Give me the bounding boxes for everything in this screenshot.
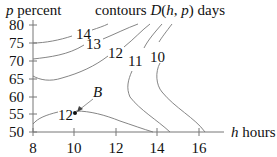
y-axis-title: p percent <box>5 2 62 18</box>
x-tick-label: 12 <box>109 140 124 156</box>
contour-label: 10 <box>150 49 165 65</box>
x-unit: hours <box>239 124 276 140</box>
contour-11: 11 <box>128 24 170 132</box>
contour-label: 13 <box>86 36 101 52</box>
point-b-annotation: B <box>73 84 102 115</box>
x-tick-label: 8 <box>29 140 37 156</box>
contour-10: 10 <box>150 24 205 132</box>
y-tick-label: 80 <box>9 17 24 33</box>
y-tick-label: 55 <box>9 106 24 122</box>
y-tick-label: 50 <box>9 124 24 140</box>
x-axis-title: h hours <box>231 124 276 140</box>
y-tick-label: 60 <box>9 89 24 105</box>
y-tick-label: 65 <box>9 71 24 87</box>
point-b-label: B <box>93 84 102 100</box>
contour-12-lower: 12 <box>33 107 153 132</box>
x-tick-label: 10 <box>67 140 82 156</box>
x-tick-label: 16 <box>192 140 208 156</box>
contour-plot: 80 75 70 65 60 55 50 8 10 12 14 16 p per… <box>0 0 277 157</box>
point-b-marker <box>73 111 77 115</box>
contour-label: 12 <box>58 107 73 123</box>
contour-label: 11 <box>128 53 142 69</box>
contour-label: 12 <box>108 45 123 61</box>
y-tick-label: 70 <box>9 53 24 69</box>
x-tick-label: 14 <box>150 140 166 156</box>
y-unit: percent <box>14 2 63 18</box>
chart-title: contours D(h, p) days <box>95 2 225 19</box>
y-tick-label: 75 <box>9 35 24 51</box>
x-var: h <box>231 124 239 140</box>
